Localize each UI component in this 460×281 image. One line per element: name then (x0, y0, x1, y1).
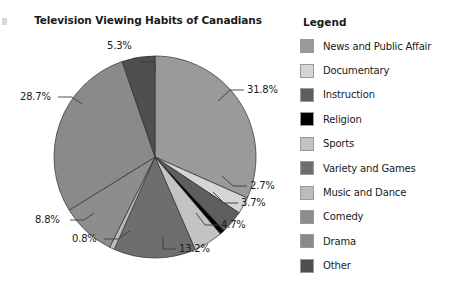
pie-chart-figure: Television Viewing Habits of Canadians 5… (0, 0, 460, 281)
legend-item[interactable]: Variety and Games (300, 156, 460, 180)
legend-item[interactable]: Music and Dance (300, 180, 460, 204)
slice-label-sports: 4.7% (221, 219, 246, 230)
legend-swatch-icon (300, 234, 314, 248)
legend-swatch-icon (300, 88, 314, 102)
legend-item[interactable]: Other (300, 254, 460, 278)
legend-swatch-icon (300, 259, 314, 273)
legend-swatch-icon (300, 112, 314, 126)
legend-item[interactable]: News and Public Affair (300, 34, 460, 58)
legend-swatch-icon (300, 161, 314, 175)
legend-item-label: Variety and Games (323, 163, 416, 174)
legend-item[interactable]: Sports (300, 132, 460, 156)
legend-item[interactable]: Comedy (300, 205, 460, 229)
legend-item-label: Drama (323, 236, 356, 247)
legend-swatch-icon (300, 39, 314, 53)
legend: Legend News and Public AffairDocumentary… (300, 16, 460, 278)
legend-item[interactable]: Religion (300, 107, 460, 131)
pie-svg (0, 0, 296, 281)
slice-label-comedy: 8.8% (35, 214, 60, 225)
legend-item-label: Religion (323, 114, 362, 125)
slice-label-other: 5.3% (107, 40, 132, 51)
legend-title: Legend (303, 16, 460, 28)
slice-label-news: 31.8% (247, 84, 278, 95)
pie-plot-area: 5.3% 31.8% 2.7% 3.7% 4.7% 13.2% 0.8% 8.8… (0, 0, 296, 281)
legend-item-label: Instruction (323, 89, 375, 100)
legend-item-label: Comedy (323, 211, 363, 222)
legend-item[interactable]: Drama (300, 229, 460, 253)
slice-label-variety: 13.2% (179, 243, 210, 254)
legend-item-label: Sports (323, 138, 354, 149)
legend-item[interactable]: Documentary (300, 58, 460, 82)
legend-item-label: Documentary (323, 65, 389, 76)
legend-item-label: Music and Dance (323, 187, 406, 198)
legend-item-label: Other (323, 260, 351, 271)
legend-swatch-icon (300, 137, 314, 151)
legend-swatch-icon (300, 64, 314, 78)
legend-swatch-icon (300, 186, 314, 200)
slice-label-music: 0.8% (72, 233, 97, 244)
legend-item-label: News and Public Affair (323, 41, 431, 52)
slice-label-documentary: 2.7% (250, 180, 275, 191)
legend-rows: News and Public AffairDocumentaryInstruc… (300, 34, 460, 278)
legend-swatch-icon (300, 210, 314, 224)
slice-label-drama: 28.7% (20, 91, 51, 102)
slice-label-instruction: 3.7% (241, 197, 266, 208)
legend-item[interactable]: Instruction (300, 83, 460, 107)
